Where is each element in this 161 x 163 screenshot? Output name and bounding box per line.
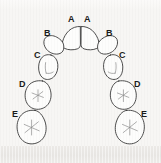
label-tooth-right-d: D xyxy=(19,80,26,89)
label-tooth-right-c: C xyxy=(34,51,41,60)
label-tooth-left-c: C xyxy=(119,51,126,60)
tooth-right-lateral-incisor xyxy=(44,36,64,55)
tooth-left-lateral-incisor xyxy=(98,36,118,55)
label-tooth-right-a: A xyxy=(68,15,75,24)
label-tooth-left-e: E xyxy=(141,110,147,119)
label-tooth-right-e: E xyxy=(12,110,18,119)
label-tooth-left-a: A xyxy=(84,15,91,24)
page-bottom-band xyxy=(0,146,161,163)
tooth-right-canine xyxy=(39,55,58,80)
tooth-left-central-incisor xyxy=(81,26,99,49)
dental-arch-figure: A A B B C C D D E E xyxy=(0,0,161,163)
tooth-right-central-incisor xyxy=(62,26,80,49)
page-bottom-band-stripes xyxy=(0,146,161,163)
label-tooth-left-d: D xyxy=(134,80,141,89)
label-tooth-right-b: B xyxy=(44,29,51,38)
label-tooth-left-b: B xyxy=(106,29,113,38)
